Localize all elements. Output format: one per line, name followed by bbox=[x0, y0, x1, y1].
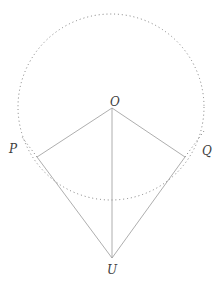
label-right-Q: Q bbox=[202, 144, 212, 158]
tangent-right-line bbox=[112, 157, 185, 258]
label-center-O: O bbox=[110, 95, 120, 109]
label-left-P: P bbox=[8, 142, 18, 156]
radius-left-line bbox=[37, 108, 112, 157]
radius-right-line bbox=[112, 108, 185, 157]
diagram-svg: O P Q U bbox=[0, 0, 221, 282]
tangent-left-line bbox=[37, 157, 112, 258]
label-external-U: U bbox=[107, 263, 118, 277]
geometry-figure: O P Q U bbox=[0, 0, 221, 282]
